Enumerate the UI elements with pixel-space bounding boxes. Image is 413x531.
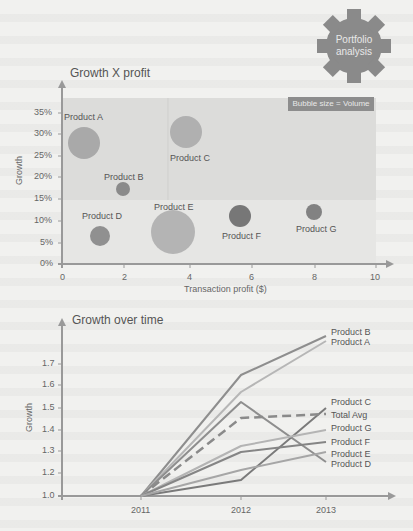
- line-label-product-d: Product D: [331, 459, 371, 469]
- y-tick: 1.7: [42, 358, 55, 368]
- line-y-axis-title: Growth: [24, 403, 34, 432]
- line-label-total-avg: Total Avg: [331, 410, 367, 420]
- y-tick: 1.2: [42, 467, 55, 477]
- line-label-product-c: Product C: [331, 397, 371, 407]
- y-tick: 1.4: [42, 424, 55, 434]
- line-label-product-b: Product B: [331, 327, 371, 337]
- line-label-product-e: Product E: [331, 449, 371, 459]
- x-tick: 2013: [316, 505, 336, 515]
- y-tick: 1.0: [42, 490, 55, 500]
- line-label-product-a: Product A: [331, 337, 370, 347]
- y-tick: 1.6: [42, 379, 55, 389]
- y-tick: 1.5: [42, 402, 55, 412]
- x-tick: 2011: [131, 505, 150, 515]
- line-label-product-f: Product F: [331, 437, 370, 447]
- y-tick: 1.3: [42, 445, 55, 455]
- line-label-product-g: Product G: [331, 423, 372, 433]
- x-tick: 2012: [231, 505, 251, 515]
